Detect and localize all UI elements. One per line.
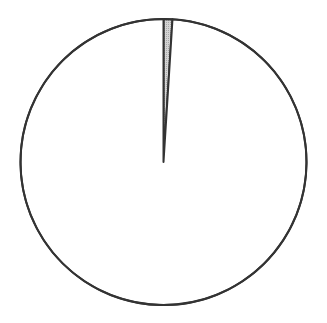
pie-chart [0,0,327,323]
pie-slice-2 [20,19,306,305]
pie-slices [20,19,306,305]
